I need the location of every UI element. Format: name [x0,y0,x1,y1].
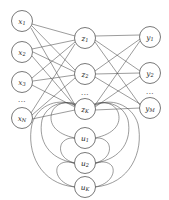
edge-u1-zK-right [94,102,119,138]
node-z1[interactable]: z1 [75,28,96,49]
node-y2[interactable]: y2 [140,63,161,84]
node-x1[interactable]: x1 [12,11,33,32]
node-xN[interactable]: xN [12,108,33,129]
node-x3[interactable]: x3 [12,72,33,93]
input-to-hidden-edges [31,24,75,119]
edge-u1-zK-left [51,102,76,138]
edge-x2-z2 [33,52,75,72]
node-uK[interactable]: uK [75,177,96,198]
edge-uK-zK-right [94,102,139,187]
hidden-to-output-edges [95,35,140,110]
node-u2[interactable]: u2 [75,153,96,174]
neural-network-diagram: x1 x2 x3 ... xN [0,0,169,200]
edge-u1-u2-left [61,138,76,163]
input-layer-ellipsis: ... [18,96,26,104]
node-z2[interactable]: z2 [75,64,96,85]
node-y1[interactable]: y1 [140,27,161,48]
edge-zK-yM [95,108,140,110]
network-graph-canvas: x1 x2 x3 ... xN [0,0,169,200]
edge-u1-u2-right [94,138,109,163]
edge-x3-z2 [33,75,75,81]
edge-z2-yM [95,77,140,104]
node-zK[interactable]: zK [75,99,96,120]
node-yM[interactable]: yM [140,98,161,119]
edge-xN-zK [32,110,75,119]
output-layer-ellipsis: ... [146,88,154,96]
edge-u2-zK-left [41,103,76,163]
edge-u2-zK-right [94,103,129,163]
network-nodes: x1 x2 x3 ... xN [12,11,161,198]
edge-x1-zK [31,28,75,105]
node-x2[interactable]: x2 [12,42,33,63]
edge-zK-y2 [95,76,140,107]
node-u1[interactable]: u1 [75,128,96,149]
edge-x3-zK [32,85,75,107]
hidden-layer-ellipsis: ... [81,89,89,97]
edge-x1-z1 [32,24,75,36]
edge-uK-zK-left [31,102,76,187]
edge-z1-y1 [95,35,140,36]
